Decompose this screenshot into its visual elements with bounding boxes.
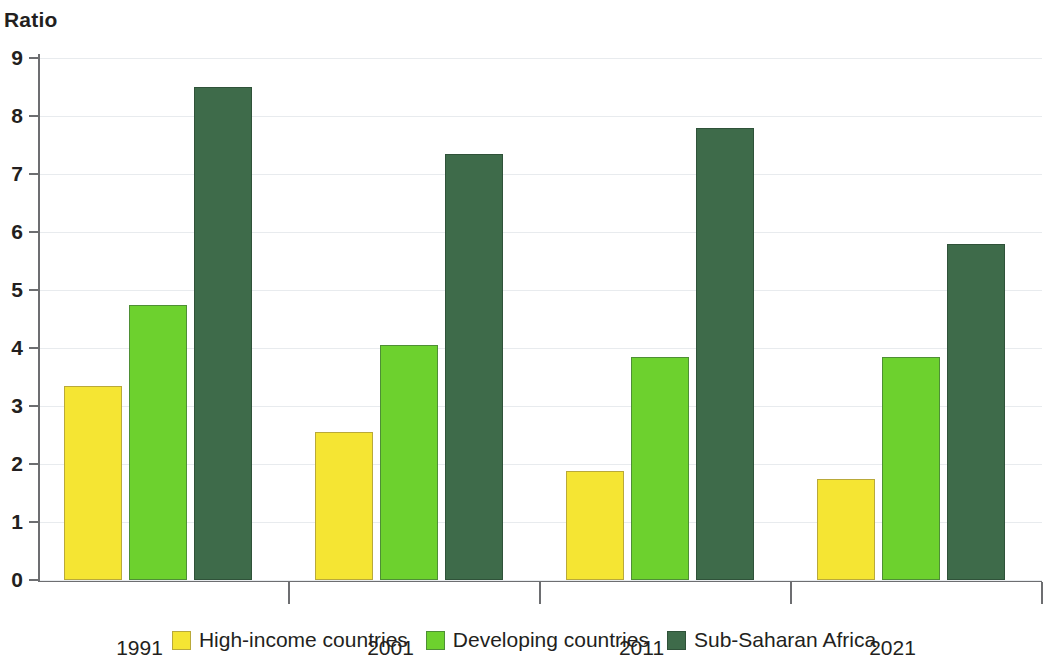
bar-2001-series-1[interactable] [380, 345, 438, 580]
gridline [40, 116, 1042, 117]
y-tick-mark [29, 579, 40, 581]
bar-2011-series-2[interactable] [696, 128, 754, 580]
gridline [40, 290, 1042, 291]
bar-2021-series-0[interactable] [817, 479, 875, 581]
legend-swatch-icon [172, 631, 191, 650]
legend-label: Developing countries [453, 628, 649, 652]
legend-swatch-icon [667, 631, 686, 650]
gridline [40, 348, 1042, 349]
y-tick-mark [29, 289, 40, 291]
legend-swatch-icon [426, 631, 445, 650]
legend-item-1[interactable]: Developing countries [426, 628, 649, 652]
y-tick-label: 0 [11, 568, 23, 592]
bar-2001-series-2[interactable] [445, 154, 503, 580]
y-tick-mark [29, 115, 40, 117]
gridline [40, 58, 1042, 59]
gridline [40, 580, 1042, 581]
y-tick-label: 6 [11, 220, 23, 244]
bar-2021-series-2[interactable] [947, 244, 1005, 580]
y-tick-mark [29, 173, 40, 175]
y-tick-label: 3 [11, 394, 23, 418]
y-tick-label: 9 [11, 46, 23, 70]
bar-1991-series-2[interactable] [194, 87, 252, 580]
chart-legend: High-income countriesDeveloping countrie… [0, 628, 1048, 652]
x-tick-mark [288, 582, 290, 604]
y-tick-label: 7 [11, 162, 23, 186]
bar-2001-series-0[interactable] [315, 432, 373, 580]
y-tick-label: 5 [11, 278, 23, 302]
legend-label: Sub-Saharan Africa [694, 628, 876, 652]
bar-1991-series-0[interactable] [64, 386, 122, 580]
x-tick-mark [539, 582, 541, 604]
gridline [40, 232, 1042, 233]
y-tick-label: 2 [11, 452, 23, 476]
y-tick-mark [29, 347, 40, 349]
y-tick-label: 1 [11, 510, 23, 534]
bar-1991-series-1[interactable] [129, 305, 187, 581]
legend-item-2[interactable]: Sub-Saharan Africa [667, 628, 876, 652]
x-tick-mark [1041, 582, 1043, 604]
bar-2011-series-1[interactable] [631, 357, 689, 580]
legend-label: High-income countries [199, 628, 408, 652]
x-tick-mark [790, 582, 792, 604]
y-tick-mark [29, 463, 40, 465]
y-axis-line [38, 54, 40, 580]
y-axis-title: Ratio [4, 8, 58, 32]
y-tick-mark [29, 57, 40, 59]
y-tick-mark [29, 521, 40, 523]
chart-plot-area: 0123456789 1991200120112021 [38, 58, 1042, 580]
y-tick-mark [29, 405, 40, 407]
legend-item-0[interactable]: High-income countries [172, 628, 408, 652]
y-tick-label: 4 [11, 336, 23, 360]
y-tick-label: 8 [11, 104, 23, 128]
bar-2011-series-0[interactable] [566, 471, 624, 580]
y-tick-mark [29, 231, 40, 233]
bar-2021-series-1[interactable] [882, 357, 940, 580]
gridline [40, 174, 1042, 175]
